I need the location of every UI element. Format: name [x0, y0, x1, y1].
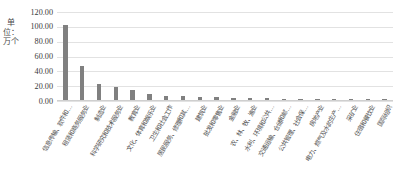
bar [282, 99, 287, 100]
x-axis-category-labels: 信息传输、软件和…租赁和商务服务业制造业科学研究和技术服务业教育业文化、体育和娱… [57, 101, 397, 182]
y-axis-tick-label: 60.00 [35, 53, 53, 61]
bar [315, 99, 320, 100]
y-axis-tick-label: 0.00 [39, 97, 53, 105]
bar [114, 87, 119, 100]
y-axis-tick-labels: 120.00100.0080.0060.0040.0020.000.00 [18, 12, 55, 101]
bar [214, 97, 219, 100]
bar [265, 98, 270, 100]
bar [97, 84, 102, 100]
bar [366, 99, 371, 100]
x-axis-category-label: 国际组织 [376, 104, 393, 127]
bar [382, 99, 387, 100]
x-axis-category-label: 教育业 [127, 104, 141, 122]
bar [332, 99, 337, 100]
bar [231, 98, 236, 100]
y-axis-tick-label: 100.00 [30, 23, 53, 31]
x-axis-category-label: 电力、燃气及水的生产… [305, 104, 343, 163]
x-axis-category-label: 建筑业 [194, 104, 208, 122]
bar [130, 90, 135, 100]
y-axis-tick-label: 120.00 [30, 8, 53, 16]
bar [248, 98, 253, 100]
bar [80, 66, 85, 100]
y-axis-tick-label: 20.00 [35, 83, 53, 91]
bar [63, 25, 68, 100]
y-axis-tick-label: 40.00 [35, 68, 53, 76]
bar [298, 99, 303, 100]
x-axis-category-label: 采矿业 [345, 104, 359, 122]
chart-page: 单位：万个 120.00100.0080.0060.0040.0020.000.… [0, 0, 397, 182]
bar [181, 96, 186, 100]
y-axis-title: 单位：万个 [3, 18, 19, 104]
bar [349, 99, 354, 100]
x-axis-category-label: 金融业 [228, 104, 242, 122]
bar [164, 96, 169, 100]
bar [198, 97, 203, 100]
y-axis-tick-label: 80.00 [35, 38, 53, 46]
bar-series [57, 12, 393, 101]
x-axis-category-label: 制造业 [93, 104, 107, 122]
bar [147, 94, 152, 100]
